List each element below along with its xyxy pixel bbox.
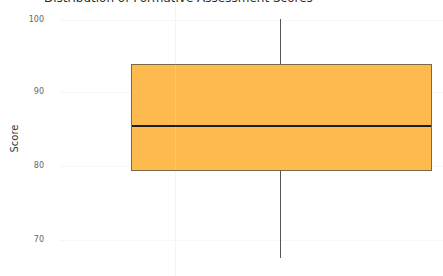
- y-tick-70: 70: [20, 235, 44, 244]
- y-tick-80: 80: [20, 161, 44, 170]
- y-axis-label: Score: [9, 119, 20, 159]
- gridline-70: [60, 240, 443, 241]
- median-line: [132, 125, 431, 127]
- gridline-100: [60, 20, 443, 21]
- y-tick-100: 100: [20, 15, 44, 24]
- box-inner-gridline: [175, 65, 176, 170]
- whisker-lower: [280, 170, 281, 258]
- box-iqr: [131, 64, 432, 171]
- chart-title: Distribution of Formative Assessment Sco…: [44, 0, 313, 5]
- whisker-upper: [280, 19, 281, 64]
- y-tick-90: 90: [20, 87, 44, 96]
